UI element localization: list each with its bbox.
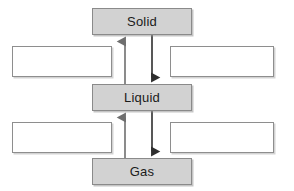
state-box-gas: Gas (92, 158, 192, 185)
blank-box-upper-left[interactable] (12, 46, 112, 77)
state-box-solid: Solid (92, 8, 192, 35)
blank-box-lower-left[interactable] (12, 122, 112, 153)
phase-change-diagram: Solid Liquid Gas (0, 0, 294, 191)
state-box-liquid: Liquid (92, 84, 192, 111)
state-label-gas: Gas (130, 164, 154, 179)
blank-box-upper-right[interactable] (170, 46, 274, 77)
state-label-solid: Solid (127, 14, 157, 29)
blank-box-lower-right[interactable] (170, 122, 274, 153)
state-label-liquid: Liquid (124, 90, 160, 105)
